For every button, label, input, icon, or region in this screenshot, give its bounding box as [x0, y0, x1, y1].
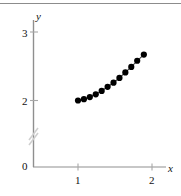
series-markers	[75, 52, 147, 104]
x-axis-label: x	[168, 163, 173, 174]
figure-container: y x 3 2 0 1 2	[0, 0, 181, 196]
data-point	[75, 97, 81, 103]
series-line	[78, 55, 144, 101]
data-point	[99, 88, 105, 94]
data-point	[110, 80, 116, 86]
data-point	[141, 52, 147, 58]
data-point	[128, 64, 134, 70]
data-point	[93, 91, 99, 97]
y-axis-label: y	[36, 11, 41, 22]
x-tick-label-1: 1	[75, 175, 81, 186]
y-tick-label-2: 2	[22, 96, 28, 107]
data-point	[105, 84, 111, 90]
data-point	[81, 96, 87, 102]
y-tick-label-0: 0	[22, 161, 28, 172]
data-point	[116, 75, 122, 81]
data-point	[87, 94, 93, 100]
x-tick-label-2: 2	[149, 175, 155, 186]
data-point	[122, 69, 128, 75]
y-tick-label-3: 3	[22, 28, 28, 39]
data-point	[134, 58, 140, 64]
